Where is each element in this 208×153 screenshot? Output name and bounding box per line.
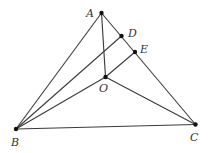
point-E: [133, 50, 137, 54]
segment-AO: [102, 13, 106, 77]
triangle-diagram: ADEOBC: [0, 0, 208, 153]
points-group: [14, 11, 198, 131]
point-A: [99, 11, 103, 15]
label-A: A: [85, 7, 94, 20]
point-C: [193, 122, 197, 126]
segment-OE: [106, 52, 136, 77]
segment-OC: [106, 77, 196, 125]
label-O: O: [99, 82, 108, 95]
point-O: [103, 75, 107, 79]
label-E: E: [139, 43, 148, 56]
label-D: D: [127, 27, 137, 40]
point-D: [119, 34, 123, 38]
label-B: B: [10, 136, 19, 149]
segment-AB: [16, 13, 102, 129]
segments-group: [16, 13, 196, 129]
label-C: C: [190, 131, 199, 144]
point-B: [14, 127, 18, 131]
segment-BC: [16, 125, 196, 130]
segment-BO: [16, 77, 106, 129]
